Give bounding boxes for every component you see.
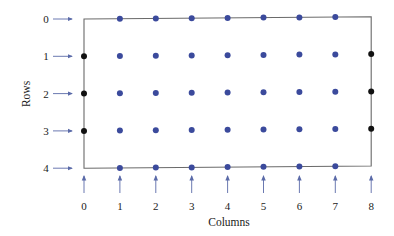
boundary-dot [368, 88, 374, 94]
interior-dot [296, 52, 302, 58]
interior-dot [189, 164, 195, 170]
interior-dot [117, 16, 123, 22]
column-label: 3 [189, 200, 195, 212]
boundary-dot [368, 126, 374, 132]
interior-dot [296, 14, 302, 20]
interior-dot [261, 52, 267, 58]
row-label: 3 [43, 125, 49, 137]
interior-dot [153, 90, 159, 96]
interior-dot [153, 53, 159, 59]
row-labels: 01234 [43, 13, 49, 174]
boundary-dot [368, 51, 374, 57]
interior-dot [189, 127, 195, 133]
interior-dot [261, 127, 267, 133]
interior-dot [296, 89, 302, 95]
interior-dot [117, 128, 123, 134]
row-label: 4 [43, 162, 49, 174]
interior-dot [225, 52, 231, 58]
column-label: 4 [225, 200, 231, 212]
boundary-dot [81, 128, 87, 134]
interior-dot [332, 126, 338, 132]
interior-dot [296, 164, 302, 170]
row-label: 1 [43, 50, 49, 62]
interior-dot [189, 90, 195, 96]
grid-dots [81, 14, 374, 171]
column-label: 1 [117, 200, 123, 212]
interior-dot [332, 14, 338, 20]
boundary-dot [81, 91, 87, 97]
interior-dot [117, 53, 123, 59]
interior-dot [332, 163, 338, 169]
row-label: 0 [43, 13, 49, 25]
interior-dot [225, 90, 231, 96]
row-indicator-arrows [53, 19, 72, 168]
column-label: 5 [261, 200, 267, 212]
boundary-dot [81, 53, 87, 59]
interior-dot [189, 53, 195, 59]
column-indicator-arrows [84, 176, 371, 193]
x-axis-title: Columns [208, 216, 250, 228]
grid-points-figure: 01234 012345678 Columns Rows [0, 0, 394, 236]
column-label: 8 [368, 200, 374, 212]
interior-dot [189, 15, 195, 21]
interior-dot [296, 126, 302, 132]
column-label: 2 [153, 200, 159, 212]
column-label: 6 [297, 200, 303, 212]
interior-dot [153, 15, 159, 21]
column-labels: 012345678 [81, 200, 374, 212]
row-label: 2 [43, 88, 49, 100]
interior-dot [153, 127, 159, 133]
interior-dot [332, 89, 338, 95]
column-label: 0 [81, 200, 87, 212]
interior-dot [117, 165, 123, 171]
interior-dot [117, 90, 123, 96]
interior-dot [261, 89, 267, 95]
interior-dot [225, 164, 231, 170]
column-label: 7 [333, 200, 339, 212]
interior-dot [261, 164, 267, 170]
y-axis-title: Rows [20, 80, 32, 107]
interior-dot [225, 15, 231, 21]
interior-dot [153, 165, 159, 171]
interior-dot [225, 127, 231, 133]
interior-dot [261, 15, 267, 21]
interior-dot [332, 51, 338, 57]
grid-diagram: 01234 012345678 Columns Rows [0, 0, 394, 236]
